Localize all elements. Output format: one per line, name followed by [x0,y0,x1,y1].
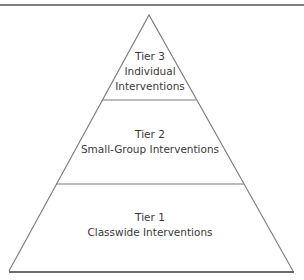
tier-2-label: Tier 2 [134,128,165,140]
tier-1-label: Tier 1 [134,211,165,223]
pyramid-figure: Tier 3 Individual Interventions Tier 2 S… [0,0,304,280]
tier-3-label: Tier 3 [134,50,165,62]
tier-2-title: Small-Group Interventions [81,143,219,155]
tier-1: Tier 1 Classwide Interventions [87,211,212,238]
pyramid-diagram: Tier 3 Individual Interventions Tier 2 S… [0,0,304,280]
tier-3-title-line-2: Interventions [115,80,185,92]
tier-1-title: Classwide Interventions [87,226,212,238]
tier-3: Tier 3 Individual Interventions [115,50,185,92]
tier-2: Tier 2 Small-Group Interventions [81,128,219,155]
tier-3-title-line-1: Individual [124,65,175,77]
